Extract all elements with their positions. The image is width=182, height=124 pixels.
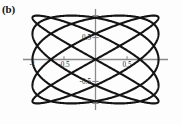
x-tick-label: -0.5 — [58, 61, 70, 69]
figure-panel: (b) -1-0.50.50.5-0.5 — [0, 0, 182, 124]
y-tick-label: 0.5 — [82, 34, 91, 42]
plot-svg: -1-0.50.50.5-0.5 — [0, 0, 182, 124]
lissajous-plot: -1-0.50.50.5-0.5 — [0, 0, 182, 124]
x-tick-label: -1 — [29, 61, 35, 69]
x-tick-label: 0.5 — [123, 61, 132, 69]
y-tick-label: -0.5 — [80, 78, 92, 86]
